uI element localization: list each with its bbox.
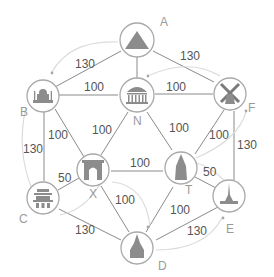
arrowhead-icon [222,217,225,220]
node-label-d: D [158,259,167,273]
weight-n-t: 100 [169,121,189,135]
node-n: N [120,78,154,128]
weight-c-x: 50 [58,171,72,185]
weight-t-d: 100 [170,203,190,217]
weight-t-e: 50 [203,165,217,179]
weight-f-e: 130 [237,138,257,152]
weight-b-n: 100 [84,80,104,94]
weight-b-c: 130 [23,142,43,156]
node-a: A [120,15,168,57]
weight-c-d: 130 [75,223,95,237]
node-x: X [77,154,109,201]
node-label-b: B [20,105,28,119]
arrowhead-icon [51,72,54,75]
graph-diagram: 130 130 100 100 130 100 100 100 100 130 … [0,0,274,277]
arrowhead-icon [245,110,248,113]
weight-x-d: 100 [115,193,135,207]
weight-a-f: 130 [180,49,200,63]
node-label-t: T [185,183,193,197]
weight-x-t: 100 [130,156,150,170]
arrowhead-icon [147,226,150,229]
weight-n-f: 100 [166,80,186,94]
weight-b-x: 100 [48,128,68,142]
weight-d-e: 130 [187,224,207,238]
node-b: B [20,80,59,119]
node-label-a: A [160,15,168,29]
node-c: C [19,182,59,226]
arrow-f-to-n [150,67,220,76]
arrowhead-icon [147,75,150,78]
node-label-e: E [226,222,234,236]
weight-a-b: 130 [75,57,95,71]
node-t: T [165,152,197,197]
node-label-x: X [89,187,97,201]
weight-f-t: 100 [209,128,229,142]
weight-n-x: 100 [92,123,112,137]
node-e: E [213,180,245,236]
route-arrows [22,42,247,250]
node-label-c: C [19,212,28,226]
node-label-f: F [248,101,255,115]
node-label-n: N [133,114,142,128]
node-f: F [214,78,255,115]
